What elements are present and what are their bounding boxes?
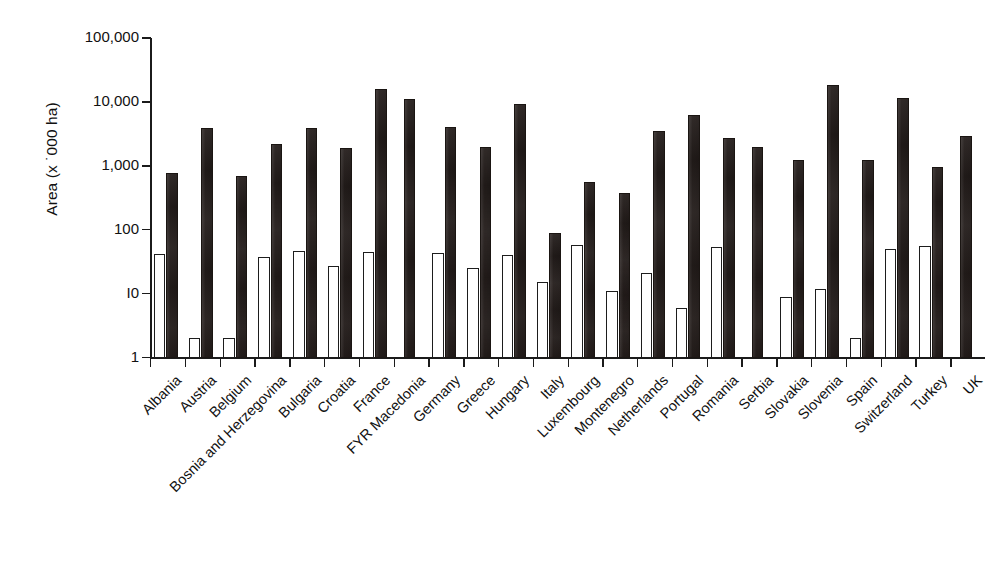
- bar-light-switzerland: [885, 249, 897, 358]
- x-axis-label-albania: Albania: [139, 372, 185, 418]
- bar-light-belgium: [223, 338, 235, 357]
- bar-dark-albania: [166, 173, 178, 358]
- bar-dark-luxembourg: [584, 182, 596, 358]
- bar-light-slovakia: [780, 297, 792, 358]
- bar-dark-romania: [723, 138, 735, 357]
- bar-light-italy: [537, 282, 549, 357]
- bar-dark-slovakia: [793, 160, 805, 358]
- bar-light-germany: [432, 253, 444, 357]
- x-tick-mark: [950, 358, 951, 367]
- x-tick-mark: [533, 358, 534, 367]
- bar-light-bosnia-and-herzegovina: [258, 257, 270, 357]
- bar-dark-italy: [549, 233, 561, 358]
- x-tick-mark: [707, 358, 708, 367]
- x-tick-mark: [811, 358, 812, 367]
- x-tick-mark: [881, 358, 882, 367]
- x-tick-mark: [359, 358, 360, 367]
- bar-light-greece: [467, 268, 479, 357]
- y-tick-label: 1: [47, 348, 139, 365]
- y-tick-label: 100,000: [47, 28, 139, 45]
- bar-dark-portugal: [688, 115, 700, 357]
- bar-dark-belgium: [236, 176, 248, 357]
- x-tick-mark: [602, 358, 603, 367]
- x-tick-mark: [776, 358, 777, 367]
- bar-dark-france: [375, 89, 387, 358]
- x-tick-mark: [428, 358, 429, 367]
- x-label-text: Turkey: [908, 372, 950, 414]
- bar-light-luxembourg: [571, 245, 583, 357]
- bar-light-montenegro: [606, 291, 618, 358]
- bar-dark-switzerland: [897, 98, 909, 357]
- bar-light-albania: [154, 254, 166, 358]
- x-tick-mark: [185, 358, 186, 367]
- bar-light-bulgaria: [293, 251, 305, 358]
- y-tick-label: 1,000: [47, 156, 139, 173]
- bar-dark-hungary: [514, 104, 526, 357]
- x-label-text: UK: [959, 372, 985, 398]
- x-tick-mark: [915, 358, 916, 367]
- x-tick-mark: [220, 358, 221, 367]
- x-label-text: Croatia: [314, 372, 358, 416]
- x-tick-mark: [498, 358, 499, 367]
- bar-dark-greece: [480, 147, 492, 358]
- bar-chart: Area (x ˙000 ha) 100,00010,0001,000100I0…: [0, 0, 985, 583]
- x-tick-mark: [150, 358, 151, 367]
- x-label-text: Albania: [139, 372, 185, 418]
- x-tick-mark: [568, 358, 569, 367]
- x-tick-mark: [324, 358, 325, 367]
- bar-light-austria: [189, 338, 201, 357]
- x-tick-mark: [394, 358, 395, 367]
- bar-dark-spain: [862, 160, 874, 358]
- bar-dark-turkey: [932, 167, 944, 357]
- bar-light-spain: [850, 338, 862, 357]
- bar-dark-uk: [960, 136, 972, 357]
- bar-light-france: [363, 252, 375, 358]
- bar-dark-montenegro: [619, 193, 631, 357]
- bar-dark-croatia: [340, 148, 352, 358]
- x-tick-mark: [254, 358, 255, 367]
- x-label-text: Italy: [537, 372, 567, 402]
- bar-dark-germany: [445, 127, 457, 357]
- bar-dark-austria: [201, 128, 213, 357]
- y-tick-label: 100: [47, 220, 139, 237]
- x-tick-mark: [637, 358, 638, 367]
- x-tick-mark: [741, 358, 742, 367]
- x-tick-mark: [289, 358, 290, 367]
- y-tick-label: I0: [47, 284, 139, 301]
- x-tick-mark: [463, 358, 464, 367]
- bar-light-portugal: [676, 308, 688, 358]
- bar-dark-netherlands: [653, 131, 665, 357]
- bar-light-turkey: [919, 246, 931, 358]
- x-axis-label-italy: Italy: [537, 372, 567, 402]
- bar-light-croatia: [328, 266, 340, 357]
- bar-light-netherlands: [641, 273, 653, 357]
- x-tick-mark: [672, 358, 673, 367]
- bar-dark-bosnia-and-herzegovina: [271, 144, 283, 358]
- plot-area: [150, 38, 985, 358]
- bar-dark-fyr-macedonia: [404, 99, 416, 357]
- bar-light-romania: [711, 247, 723, 358]
- bar-dark-bulgaria: [306, 128, 318, 357]
- bar-dark-serbia: [752, 147, 764, 357]
- x-axis-label-uk: UK: [959, 372, 985, 398]
- y-tick-label: 10,000: [47, 92, 139, 109]
- x-tick-mark: [846, 358, 847, 367]
- x-axis-label-turkey: Turkey: [908, 372, 950, 414]
- bar-dark-slovenia: [827, 85, 839, 358]
- bar-light-slovenia: [815, 289, 827, 358]
- x-axis-label-croatia: Croatia: [314, 372, 358, 416]
- bar-light-hungary: [502, 255, 514, 357]
